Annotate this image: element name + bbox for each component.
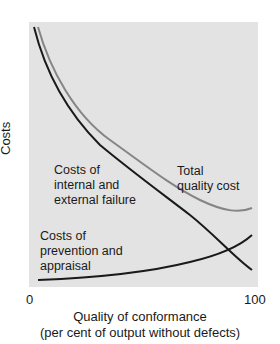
x-axis-sublabel: (per cent of output without defects) bbox=[0, 325, 280, 341]
x-tick-100: 100 bbox=[244, 292, 266, 307]
total-cost-label: Total quality cost bbox=[177, 164, 240, 194]
prevention-label-line: appraisal bbox=[40, 259, 123, 274]
prevention-label-line: prevention and bbox=[40, 244, 123, 259]
prevention-label: Costs of prevention and appraisal bbox=[40, 229, 123, 274]
prevention-label-line: Costs of bbox=[40, 229, 123, 244]
x-tick-0: 0 bbox=[26, 292, 33, 307]
failure-label: Costs of internal and external failure bbox=[54, 163, 136, 208]
total-label-line: quality cost bbox=[177, 179, 240, 194]
y-axis-label: Costs bbox=[0, 122, 13, 155]
total-label-line: Total bbox=[177, 164, 240, 179]
failure-label-line: Costs of bbox=[54, 163, 136, 178]
failure-label-line: internal and bbox=[54, 178, 136, 193]
x-axis-label: Quality of conformance bbox=[0, 309, 280, 325]
failure-label-line: external failure bbox=[54, 193, 136, 208]
